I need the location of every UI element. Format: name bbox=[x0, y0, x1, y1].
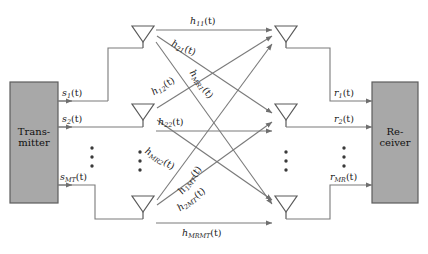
tx-antenna-2 bbox=[132, 104, 154, 127]
channel-label-h22: h22(t) bbox=[158, 117, 184, 127]
receiver-label-line2: ceiver bbox=[379, 137, 410, 148]
tx-feed-mt bbox=[58, 185, 143, 219]
rx-feed-mr bbox=[286, 185, 372, 219]
tx-antenna-1 bbox=[132, 26, 154, 48]
transmitter-label: Trans- mitter bbox=[10, 126, 58, 148]
transmitter-label-line1: Trans- bbox=[18, 126, 50, 137]
rx-antenna-2 bbox=[275, 104, 297, 127]
rx-antenna-mr bbox=[275, 196, 297, 219]
tx-block-ellipsis-dots bbox=[90, 146, 93, 167]
figure-canvas: Trans- mitter Re- ceiver s1(t) s2(t) sMT… bbox=[0, 0, 428, 254]
transmitter-label-line2: mitter bbox=[18, 137, 49, 148]
signal-label-s2: s2(t) bbox=[62, 114, 82, 124]
signal-label-s1: s1(t) bbox=[62, 88, 82, 98]
tx-antenna-mt bbox=[132, 196, 154, 219]
signal-label-smt: sMT(t) bbox=[60, 172, 87, 182]
receiver-label-line1: Re- bbox=[387, 126, 404, 137]
signal-label-r1: r1(t) bbox=[334, 88, 354, 98]
rx-ellipsis-dots bbox=[284, 150, 287, 171]
mimo-diagram-svg bbox=[0, 0, 428, 254]
signal-label-rmr: rMR(t) bbox=[330, 172, 357, 182]
channel-label-h11: h11(t) bbox=[190, 16, 216, 26]
tx-ellipsis-dots bbox=[138, 150, 141, 171]
rx-block-ellipsis-dots bbox=[342, 146, 345, 167]
signal-label-r2: r2(t) bbox=[334, 114, 354, 124]
receiver-label: Re- ceiver bbox=[372, 126, 418, 148]
rx-antenna-1 bbox=[275, 26, 297, 48]
channel-label-hMRMT: hMRMT(t) bbox=[182, 228, 222, 238]
rx-feed-1 bbox=[286, 48, 372, 101]
